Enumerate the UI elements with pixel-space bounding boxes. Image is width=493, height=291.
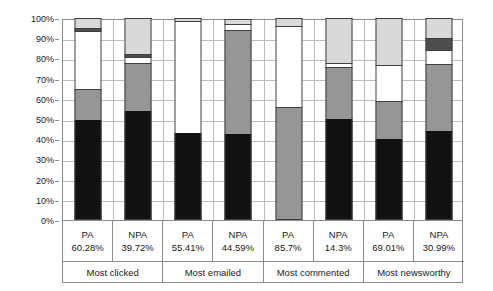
category-label-cell: NPA30.99%: [414, 221, 464, 261]
stacked-bar[interactable]: [325, 18, 352, 220]
category-label-cell: PA85.7%: [264, 221, 314, 261]
bar-segment-5: [125, 18, 152, 54]
y-axis-tick-mark: [55, 181, 59, 182]
bar-slot: [364, 20, 414, 220]
bar-segment-2: [125, 63, 152, 110]
bar-segment-4: [75, 28, 102, 31]
bar-segment-1: [125, 111, 152, 220]
category-label: NPA: [329, 228, 348, 241]
group-label: Most commented: [277, 267, 350, 278]
bar-segment-3: [275, 26, 302, 107]
bar-segment-2: [375, 101, 402, 139]
stacked-bar[interactable]: [425, 18, 452, 220]
bar-segment-5: [275, 18, 302, 26]
bar-segment-3: [425, 50, 452, 64]
bar-segment-5: [425, 18, 452, 38]
bar-segment-1: [175, 133, 202, 220]
category-percent: 39.72%: [122, 241, 154, 254]
stacked-bar[interactable]: [225, 18, 252, 220]
y-axis-tick-label: 30%: [6, 155, 54, 165]
bar-segment-3: [175, 21, 202, 133]
category-percent: 55.41%: [172, 241, 204, 254]
y-axis-tick-mark: [55, 59, 59, 60]
y-axis-tick-label: 0%: [6, 216, 54, 226]
bar-slot: [113, 20, 163, 220]
stacked-bar[interactable]: [375, 18, 402, 220]
category-percent: 44.59%: [222, 241, 254, 254]
bar-segment-3: [225, 24, 252, 30]
stacked-bar[interactable]: [75, 18, 102, 220]
bar-slot: [264, 20, 314, 220]
bar-segment-2: [75, 89, 102, 120]
group-label: Most clicked: [86, 267, 138, 278]
category-label-cell: PA60.28%: [63, 221, 113, 261]
category-label: PA: [82, 228, 94, 241]
category-percent: 14.3%: [325, 241, 352, 254]
bar-slot: [213, 20, 263, 220]
bar-segment-1: [225, 134, 252, 220]
category-label-cell: PA55.41%: [163, 221, 213, 261]
category-label: NPA: [229, 228, 248, 241]
category-label: PA: [182, 228, 194, 241]
bar-slot: [414, 20, 464, 220]
group-label: Most emailed: [185, 267, 242, 278]
category-label-cell: PA69.01%: [364, 221, 414, 261]
bar-segment-4: [125, 54, 152, 57]
y-axis: 0%10%20%30%40%50%60%70%80%90%100%: [0, 0, 62, 240]
bar-segment-5: [325, 18, 352, 63]
y-axis-tick-label: 40%: [6, 135, 54, 145]
y-axis-tick-mark: [55, 19, 59, 20]
y-axis-tick-label: 100%: [6, 14, 54, 24]
y-axis-tick-mark: [55, 221, 59, 222]
y-axis-tick-mark: [55, 100, 59, 101]
group-label-cell: Most clicked: [63, 261, 163, 282]
bar-slot: [63, 20, 113, 220]
y-axis-tick-mark: [55, 201, 59, 202]
stacked-bar[interactable]: [275, 18, 302, 220]
bar-slot: [314, 20, 364, 220]
group-label: Most newsworthy: [377, 267, 450, 278]
bar-segment-5: [225, 19, 252, 24]
category-label-cell: NPA14.3%: [314, 221, 364, 261]
stacked-bar[interactable]: [175, 18, 202, 220]
bar-segment-1: [75, 120, 102, 220]
bar-segment-3: [325, 63, 352, 67]
bar-segment-1: [325, 119, 352, 220]
category-percent: 60.28%: [71, 241, 103, 254]
plot-area: [62, 19, 463, 221]
y-axis-tick-label: 80%: [6, 54, 54, 64]
y-axis-tick-label: 60%: [6, 95, 54, 105]
bar-segment-1: [425, 131, 452, 220]
category-label-cell: NPA44.59%: [213, 221, 263, 261]
y-axis-tick-label: 90%: [6, 34, 54, 44]
bar-segment-4: [425, 38, 452, 50]
bar-segment-5: [75, 18, 102, 28]
bar-slot: [163, 20, 213, 220]
y-axis-tick-label: 50%: [6, 115, 54, 125]
category-percent: 30.99%: [423, 241, 455, 254]
group-label-cell: Most newsworthy: [364, 261, 464, 282]
category-percent: 69.01%: [372, 241, 404, 254]
category-percent: 85.7%: [275, 241, 302, 254]
y-axis-tick-label: 70%: [6, 75, 54, 85]
stacked-bar[interactable]: [125, 18, 152, 220]
y-axis-tick-mark: [55, 120, 59, 121]
bar-segment-2: [425, 64, 452, 131]
category-label: PA: [382, 228, 394, 241]
y-axis-tick-label: 20%: [6, 176, 54, 186]
y-axis-tick-mark: [55, 160, 59, 161]
category-label-table: PA60.28%NPA39.72%PA55.41%NPA44.59%PA85.7…: [62, 221, 463, 283]
y-axis-tick-mark: [55, 140, 59, 141]
y-axis-tick-label: 10%: [6, 196, 54, 206]
bar-segment-5: [175, 18, 202, 21]
y-axis-tick-mark: [55, 80, 59, 81]
category-label: NPA: [430, 228, 449, 241]
bar-segment-2: [275, 107, 302, 220]
bar-segment-3: [75, 31, 102, 89]
category-label: NPA: [128, 228, 147, 241]
bar-segment-3: [125, 57, 152, 63]
bar-segment-1: [375, 139, 402, 220]
y-axis-tick-mark: [55, 39, 59, 40]
group-label-cell: Most commented: [264, 261, 364, 282]
bar-segment-3: [375, 65, 402, 100]
